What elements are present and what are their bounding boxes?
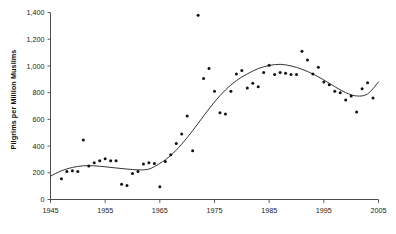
y-tick-label: 400 bbox=[33, 142, 45, 151]
data-point bbox=[361, 87, 364, 90]
x-tick-label: 1955 bbox=[97, 206, 113, 215]
data-point bbox=[202, 77, 205, 80]
data-point bbox=[300, 50, 303, 53]
data-point bbox=[279, 71, 282, 74]
data-point bbox=[197, 14, 200, 17]
data-point bbox=[120, 183, 123, 186]
data-point bbox=[126, 184, 129, 187]
data-point bbox=[175, 142, 178, 145]
data-point bbox=[268, 64, 271, 67]
data-point bbox=[339, 91, 342, 94]
y-tick-label: 1,200 bbox=[27, 35, 45, 44]
x-tick-label: 1975 bbox=[207, 206, 223, 215]
y-tick-label: 0 bbox=[41, 195, 45, 204]
data-point bbox=[328, 83, 331, 86]
data-point bbox=[333, 90, 336, 93]
data-point bbox=[295, 73, 298, 76]
data-point bbox=[229, 90, 232, 93]
data-point bbox=[71, 169, 74, 172]
data-point bbox=[104, 157, 107, 160]
data-point bbox=[98, 159, 101, 162]
data-point bbox=[158, 185, 161, 188]
x-tick-label: 1995 bbox=[316, 206, 332, 215]
data-point bbox=[191, 149, 194, 152]
x-tick-label: 1985 bbox=[261, 206, 277, 215]
data-point bbox=[164, 160, 167, 163]
data-point bbox=[240, 69, 243, 72]
data-point bbox=[257, 85, 260, 88]
data-point bbox=[251, 82, 254, 85]
data-point bbox=[208, 67, 211, 70]
data-point bbox=[317, 66, 320, 69]
data-point bbox=[213, 90, 216, 93]
plot-area: 02004006008001,0001,2001,400 19451955196… bbox=[0, 0, 396, 234]
data-point bbox=[82, 139, 85, 142]
data-point bbox=[87, 165, 90, 168]
data-point bbox=[93, 161, 96, 164]
data-point-group bbox=[60, 14, 375, 189]
x-tick-label: 1945 bbox=[43, 206, 59, 215]
data-point bbox=[131, 172, 134, 175]
data-point bbox=[355, 111, 358, 114]
x-tick-label: 2005 bbox=[371, 206, 387, 215]
data-point bbox=[224, 113, 227, 116]
y-tick-label: 600 bbox=[33, 115, 45, 124]
data-point bbox=[60, 177, 63, 180]
scatter-chart: Pilgrims per Million Muslims 02004006008… bbox=[0, 0, 396, 234]
data-point bbox=[147, 161, 150, 164]
data-point bbox=[180, 133, 183, 136]
data-point bbox=[372, 96, 375, 99]
data-point bbox=[284, 72, 287, 75]
data-point bbox=[246, 86, 249, 89]
data-point bbox=[290, 73, 293, 76]
data-point bbox=[366, 81, 369, 84]
data-point bbox=[115, 159, 118, 162]
data-point bbox=[109, 159, 112, 162]
y-tick-label: 1,000 bbox=[27, 62, 45, 71]
data-point bbox=[235, 72, 238, 75]
data-point bbox=[136, 170, 139, 173]
data-point bbox=[311, 72, 314, 75]
y-axis-tick-labels: 02004006008001,0001,2001,400 bbox=[27, 8, 45, 204]
y-tick-label: 200 bbox=[33, 168, 45, 177]
data-point bbox=[350, 94, 353, 97]
y-tick-label: 800 bbox=[33, 88, 45, 97]
data-point bbox=[65, 170, 68, 173]
data-point bbox=[344, 98, 347, 101]
data-point bbox=[273, 73, 276, 76]
data-point bbox=[262, 71, 265, 74]
data-point bbox=[186, 115, 189, 118]
data-point bbox=[142, 163, 145, 166]
data-point bbox=[218, 111, 221, 114]
x-axis-tick-labels: 1945195519651975198519952005 bbox=[43, 206, 387, 215]
data-point bbox=[306, 58, 309, 61]
data-point bbox=[76, 170, 79, 173]
x-axis-tick-marks bbox=[51, 200, 379, 204]
data-point bbox=[169, 153, 172, 156]
data-point bbox=[322, 80, 325, 83]
y-tick-label: 1,400 bbox=[27, 8, 45, 17]
x-tick-label: 1965 bbox=[152, 206, 168, 215]
data-point bbox=[153, 162, 156, 165]
